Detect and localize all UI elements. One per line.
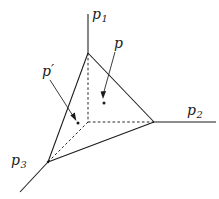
point-label-p: p xyxy=(114,36,123,50)
axis-label-p2: p2 xyxy=(187,103,202,117)
point-dot-p-prime xyxy=(77,122,80,125)
prime-symbol: ′ xyxy=(51,62,54,78)
point-label-p-text: p xyxy=(114,35,123,51)
edge-apex-right xyxy=(88,53,154,122)
axis-label-p2-base: p xyxy=(187,102,196,118)
simplex-diagram: p1 p2 p3 p p′ xyxy=(0,0,219,199)
axis-label-p1-subscript: 1 xyxy=(101,13,107,24)
leader-line-p-prime xyxy=(50,80,73,116)
arrowhead-p xyxy=(101,91,107,99)
point-label-p-prime: p′ xyxy=(42,64,54,78)
axis-label-p2-subscript: 2 xyxy=(196,109,202,120)
axis-label-p3-base: p xyxy=(11,152,20,168)
point-dot-p xyxy=(103,102,106,105)
vertex-dot-bottom-left xyxy=(47,161,49,163)
axis-label-p3-subscript: 3 xyxy=(20,159,26,170)
axis-label-p3: p3 xyxy=(11,153,26,167)
axis-label-p1: p1 xyxy=(92,7,107,21)
point-label-p-prime-text: p xyxy=(42,63,51,79)
simplex-figure-canvas xyxy=(0,0,219,199)
leader-line-p xyxy=(104,52,115,93)
hidden-edge-back-bottomleft xyxy=(48,122,88,162)
axis-label-p1-base: p xyxy=(92,6,101,22)
edge-right-bottomleft xyxy=(48,122,154,162)
